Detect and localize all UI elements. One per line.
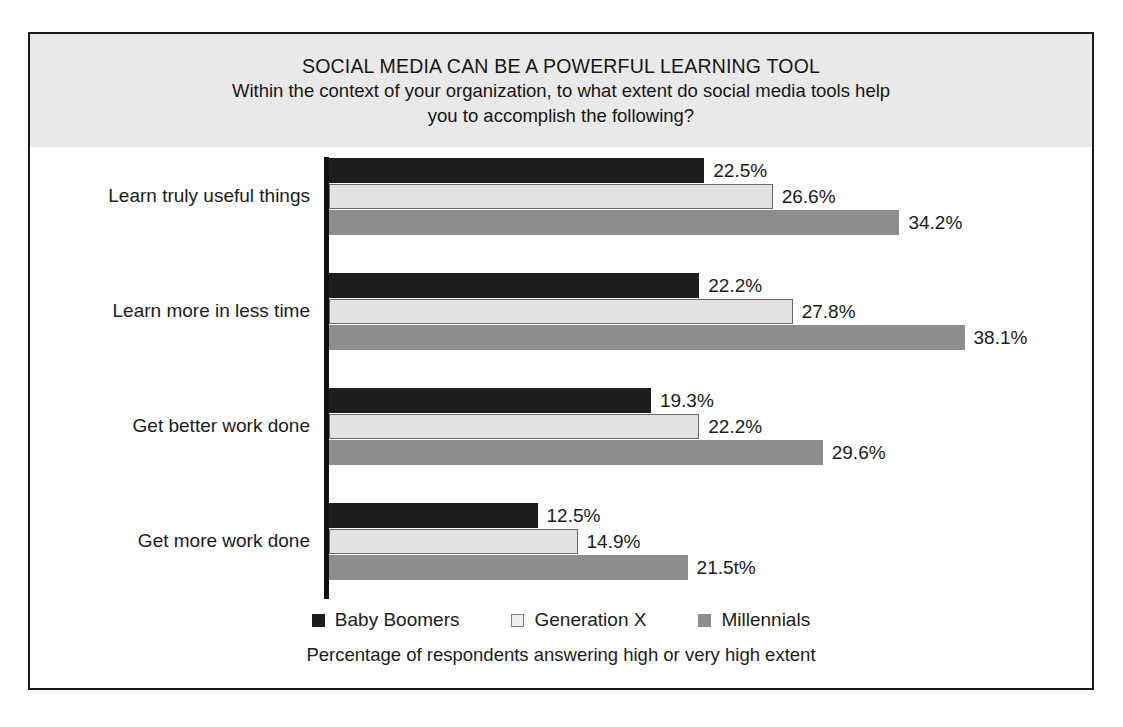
category-label: Get better work done (30, 415, 310, 437)
bar-value-label: 22.2% (708, 275, 762, 297)
bar-value-label: 14.9% (587, 531, 641, 553)
category-label: Learn truly useful things (30, 185, 310, 207)
bar-value-label: 21.5t% (697, 557, 756, 579)
bar-row: 38.1% (329, 325, 1027, 350)
bar-row: 22.2% (329, 273, 762, 298)
bar-group-bars: 19.3%22.2%29.6% (329, 387, 1092, 465)
bar-row: 27.8% (329, 299, 856, 324)
bar-baby-boomers[interactable] (329, 388, 651, 413)
chart-title-band: SOCIAL MEDIA CAN BE A POWERFUL LEARNING … (30, 34, 1092, 147)
bar-group: Learn more in less time22.2%27.8%38.1% (30, 272, 1092, 350)
bar-value-label: 19.3% (660, 390, 714, 412)
legend-item[interactable]: Millennials (698, 609, 810, 631)
bar-value-label: 34.2% (908, 212, 962, 234)
bar-millennials[interactable] (329, 210, 899, 235)
bar-group: Get more work done12.5%14.9%21.5t% (30, 502, 1092, 580)
bar-groups-container: Learn truly useful things22.5%26.6%34.2%… (30, 147, 1092, 688)
bar-millennials[interactable] (329, 325, 965, 350)
category-label: Get more work done (30, 530, 310, 552)
chart-subtitle-line-1: Within the context of your organization,… (232, 79, 890, 104)
bar-baby-boomers[interactable] (329, 273, 699, 298)
legend-label: Generation X (534, 609, 646, 631)
bar-value-label: 27.8% (802, 301, 856, 323)
bar-group-bars: 12.5%14.9%21.5t% (329, 502, 1092, 580)
bar-row: 19.3% (329, 388, 714, 413)
bar-value-label: 22.5% (713, 160, 767, 182)
chart-axis-caption: Percentage of respondents answering high… (30, 644, 1092, 666)
bar-millennials[interactable] (329, 440, 823, 465)
bar-value-label: 29.6% (832, 442, 886, 464)
legend-swatch-generation-x (511, 614, 524, 627)
bar-baby-boomers[interactable] (329, 158, 704, 183)
legend-swatch-millennials (698, 614, 711, 627)
bar-row: 34.2% (329, 210, 962, 235)
bar-generation-x[interactable] (329, 529, 578, 554)
bar-row: 29.6% (329, 440, 886, 465)
bar-row: 22.2% (329, 414, 762, 439)
bar-group-bars: 22.5%26.6%34.2% (329, 157, 1092, 235)
bar-value-label: 38.1% (974, 327, 1028, 349)
bar-group: Get better work done19.3%22.2%29.6% (30, 387, 1092, 465)
bar-value-label: 26.6% (782, 186, 836, 208)
bar-row: 22.5% (329, 158, 767, 183)
legend-item[interactable]: Generation X (511, 609, 646, 631)
chart-plot-area: Learn truly useful things22.5%26.6%34.2%… (30, 147, 1092, 688)
legend-label: Baby Boomers (335, 609, 460, 631)
bar-row: 26.6% (329, 184, 836, 209)
legend-swatch-baby-boomers (312, 614, 325, 627)
category-label: Learn more in less time (30, 300, 310, 322)
bar-row: 21.5t% (329, 555, 756, 580)
legend-label: Millennials (721, 609, 810, 631)
bar-group-bars: 22.2%27.8%38.1% (329, 272, 1092, 350)
chart-legend: Baby BoomersGeneration XMillennials (30, 609, 1092, 631)
chart-figure-frame: SOCIAL MEDIA CAN BE A POWERFUL LEARNING … (28, 32, 1094, 690)
bar-millennials[interactable] (329, 555, 688, 580)
chart-title: SOCIAL MEDIA CAN BE A POWERFUL LEARNING … (302, 54, 820, 79)
bar-group: Learn truly useful things22.5%26.6%34.2% (30, 157, 1092, 235)
bar-row: 14.9% (329, 529, 640, 554)
chart-subtitle-line-2: you to accomplish the following? (428, 104, 694, 129)
bar-value-label: 22.2% (708, 416, 762, 438)
bar-generation-x[interactable] (329, 184, 773, 209)
legend-item[interactable]: Baby Boomers (312, 609, 460, 631)
bar-row: 12.5% (329, 503, 600, 528)
bar-generation-x[interactable] (329, 299, 793, 324)
bar-generation-x[interactable] (329, 414, 699, 439)
bar-value-label: 12.5% (547, 505, 601, 527)
bar-baby-boomers[interactable] (329, 503, 538, 528)
